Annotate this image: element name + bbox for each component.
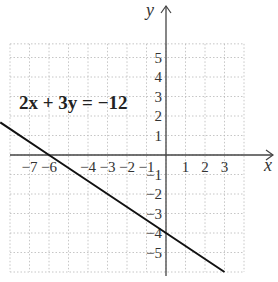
x-tick-label: −2 [119,159,135,175]
x-tick-label: 1 [182,159,190,175]
y-tick-label: 5 [155,50,163,66]
coordinate-plane: −7−6−4−3−2−112354321−1−2−3−4−5 2x + 3y =… [0,0,278,282]
x-tick-label: 2 [201,159,209,175]
y-tick-label: −4 [146,225,162,241]
y-tick-label: −1 [146,167,162,183]
x-tick-label: −3 [100,159,116,175]
y-tick-label: 3 [155,89,163,105]
x-tick-label: −7 [22,159,38,175]
y-tick-label: −2 [146,186,162,202]
x-axis-label: x [263,155,272,175]
equation-label: 2x + 3y = −12 [19,92,127,113]
y-axis-label: y [144,0,154,20]
x-tick-label: −4 [80,159,96,175]
axes [10,6,273,276]
x-tick-label: −6 [41,159,57,175]
y-tick-label: 4 [155,69,163,85]
x-tick-label: 3 [221,159,229,175]
y-tick-label: −3 [146,206,162,222]
line-plot [0,122,224,272]
grid-lines [10,44,244,272]
line-series [0,122,224,272]
y-tick-label: −5 [146,245,162,261]
y-tick-label: 2 [155,108,163,124]
y-tick-label: 1 [155,128,163,144]
